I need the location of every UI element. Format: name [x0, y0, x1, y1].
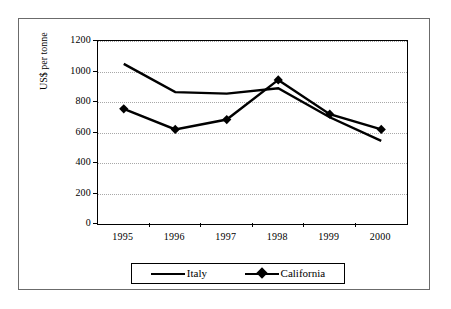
x-tick-label: 2000 — [355, 232, 405, 242]
x-tick-mark — [355, 223, 356, 227]
legend-item-california: California — [245, 268, 326, 279]
y-axis-title: US$ per tonne — [38, 74, 49, 90]
plot-area — [97, 40, 408, 225]
x-tick-label: 1998 — [252, 232, 302, 242]
legend-line-icon — [151, 269, 185, 279]
y-tick-label: 0 — [86, 218, 91, 228]
y-tick-label: 400 — [75, 157, 91, 167]
series-line-italy — [124, 64, 382, 141]
y-tick-label: 200 — [75, 188, 91, 198]
x-tick-label: 1997 — [201, 232, 251, 242]
line-chart: US$ per tonne 020040060080010001200 1995… — [0, 0, 451, 309]
x-tick-mark — [303, 223, 304, 227]
legend-diamond-icon — [245, 269, 279, 279]
x-tick-mark — [200, 223, 201, 227]
data-point-marker-california — [377, 125, 386, 134]
data-point-marker-california — [171, 125, 180, 134]
data-point-marker-california — [119, 104, 128, 113]
x-tick-label: 1999 — [304, 232, 354, 242]
y-tick-label: 800 — [75, 96, 91, 106]
legend-item-italy: Italy — [151, 268, 207, 279]
y-axis-title-text: US$ per tonne — [38, 90, 49, 106]
legend-label-italy: Italy — [187, 268, 207, 279]
y-tick-label: 600 — [75, 127, 91, 137]
x-tick-label: 1995 — [98, 232, 148, 242]
x-tick-label: 1996 — [149, 232, 199, 242]
x-tick-mark — [252, 223, 253, 227]
y-tick-label: 1000 — [70, 66, 91, 76]
figure-root: US$ per tonne 020040060080010001200 1995… — [0, 0, 451, 309]
series-layer — [98, 41, 407, 224]
legend-label-california: California — [281, 268, 326, 279]
chart-legend: Italy California — [131, 263, 345, 284]
x-tick-mark — [149, 223, 150, 227]
y-tick-label: 1200 — [70, 35, 91, 45]
